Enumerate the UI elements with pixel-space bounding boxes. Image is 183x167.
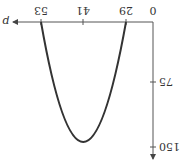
chart-container: 0 29 41 53 p 75 150 (0, 0, 183, 167)
x-tick-label-41: 41 (76, 4, 90, 17)
parabola-chart: 0 29 41 53 p 75 150 (0, 0, 183, 167)
x-tick-label-53: 53 (34, 4, 48, 17)
y-tick-label-75: 75 (159, 75, 173, 88)
x-tick-label-29: 29 (119, 4, 133, 17)
origin-label: 0 (150, 4, 157, 17)
y-tick-label-150: 150 (159, 140, 180, 153)
parabola-curve (41, 22, 126, 142)
x-axis-label: p (2, 15, 9, 28)
